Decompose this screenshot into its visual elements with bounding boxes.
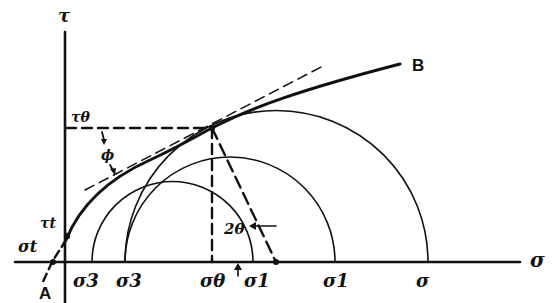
- sigma-theta-arrowhead: [234, 263, 242, 270]
- tau-axis-label: τ: [58, 7, 70, 25]
- sigma-t-label: σt: [18, 239, 37, 255]
- curve-label-a: A: [39, 285, 51, 302]
- phi-arrowhead-top: [101, 139, 107, 145]
- tau-theta-label: τθ: [71, 110, 90, 124]
- failure-envelope-curve: [66, 64, 400, 240]
- phi-arrow-top: [102, 132, 104, 140]
- x-tick-sigma-theta: σθ: [200, 272, 225, 290]
- x-tick-sigma3-b: σ3: [116, 272, 142, 290]
- mohr-circle-2: [125, 157, 335, 262]
- x-tick-sigma3-a: σ3: [73, 272, 99, 290]
- tangent-point: [209, 125, 215, 131]
- circle-center-point: [273, 259, 279, 265]
- mohr-diagram: [0, 0, 554, 303]
- x-tick-sigma1-b: σ1: [323, 272, 349, 290]
- sigma-t-point: [50, 259, 56, 265]
- phi-label: ϕ: [101, 148, 114, 162]
- two-theta-arrowhead: [249, 222, 256, 230]
- tau-t-point: [64, 233, 70, 239]
- tau-t-label: τt: [40, 216, 56, 230]
- x-tick-sigma: σ: [416, 272, 429, 290]
- phi-arrowhead-bottom: [110, 168, 116, 175]
- mohr-circle-3: [125, 111, 428, 263]
- x-tick-sigma1-a: σ1: [244, 272, 270, 290]
- two-theta-label: 2θ: [224, 222, 244, 237]
- radius-dashed-line: [212, 128, 276, 262]
- sigma-axis-label: σ: [530, 250, 545, 270]
- curve-label-b: B: [412, 57, 424, 74]
